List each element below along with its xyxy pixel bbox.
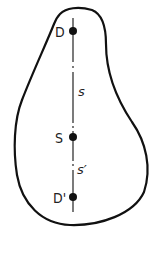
label-D: D [55, 24, 65, 40]
diagram-figure: D s S s′ D' [0, 0, 158, 265]
point-D [69, 27, 77, 35]
label-S: S [55, 130, 63, 146]
point-S [69, 133, 77, 141]
diagram-canvas: D s S s′ D' [0, 0, 158, 265]
label-s: s [78, 84, 85, 99]
point-D-prime [69, 193, 77, 201]
body-outline [15, 8, 148, 225]
label-D-prime: D' [53, 190, 66, 206]
label-s-prime: s′ [77, 162, 87, 177]
